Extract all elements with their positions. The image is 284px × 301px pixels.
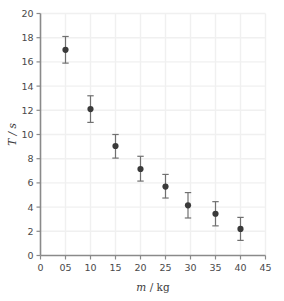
y-tick-label: 18 xyxy=(21,32,33,43)
data-points xyxy=(62,47,243,232)
y-tick-labels: 02468101214161820 xyxy=(21,8,33,261)
x-tick-label: 30 xyxy=(184,262,196,273)
data-point-marker xyxy=(162,183,168,189)
y-tick-label: 20 xyxy=(21,8,33,19)
axis-ticks xyxy=(37,14,266,260)
error-bars xyxy=(62,36,243,240)
data-point-marker xyxy=(237,226,243,232)
data-point-marker xyxy=(112,143,118,149)
chart-figure: 0051015202530354045 02468101214161820 m … xyxy=(0,0,284,301)
data-point-marker xyxy=(185,202,191,208)
y-tick-label: 10 xyxy=(21,129,33,140)
data-point-marker xyxy=(137,166,143,172)
y-tick-label: 2 xyxy=(27,226,33,237)
x-tick-label: 25 xyxy=(159,262,171,273)
x-tick-label: 40 xyxy=(234,262,246,273)
x-tick-labels: 0051015202530354045 xyxy=(37,262,271,273)
x-tick-label: 35 xyxy=(209,262,221,273)
gridlines xyxy=(41,14,266,256)
y-tick-label: 14 xyxy=(21,81,33,92)
y-tick-label: 4 xyxy=(27,202,33,213)
data-point-marker xyxy=(87,106,93,112)
x-tick-label: 05 xyxy=(59,262,71,273)
x-tick-label: 20 xyxy=(134,262,146,273)
y-tick-label: 0 xyxy=(27,250,33,261)
y-tick-label: 8 xyxy=(27,153,33,164)
x-tick-label: 10 xyxy=(84,262,96,273)
y-tick-label: 6 xyxy=(27,177,33,188)
x-tick-label: 15 xyxy=(109,262,121,273)
x-axis-title: m / kg xyxy=(136,281,170,293)
data-point-marker xyxy=(212,211,218,217)
x-tick-label: 0 xyxy=(37,262,43,273)
scatter-plot: 0051015202530354045 02468101214161820 m … xyxy=(0,0,284,301)
x-tick-label: 45 xyxy=(259,262,271,273)
data-point-marker xyxy=(62,47,68,53)
y-tick-label: 16 xyxy=(21,56,33,67)
y-axis-title: T / s xyxy=(6,123,18,146)
y-tick-label: 12 xyxy=(21,105,33,116)
